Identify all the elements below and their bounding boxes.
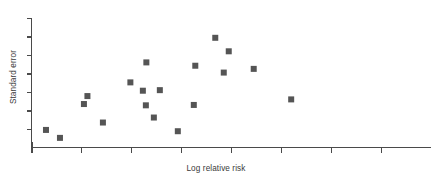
data-point <box>288 96 294 102</box>
data-point <box>84 93 90 99</box>
x-axis-label: Log relative risk <box>186 164 246 173</box>
y-axis-label: Standard error <box>9 50 18 104</box>
scatter-plot-canvas: Log relative risk Standard error <box>0 0 432 178</box>
funnel-plot-figure: Log relative risk Standard error <box>0 0 432 178</box>
data-point <box>251 66 257 72</box>
data-point <box>226 48 232 54</box>
data-point <box>221 70 227 76</box>
data-point-group <box>43 35 294 141</box>
data-point <box>175 128 181 134</box>
data-point <box>43 127 49 133</box>
data-point <box>192 63 198 69</box>
data-point <box>191 102 197 108</box>
data-point <box>127 79 133 85</box>
data-point <box>100 120 106 126</box>
data-point <box>140 88 146 94</box>
data-point <box>143 59 149 65</box>
data-point <box>151 115 157 121</box>
data-point <box>81 101 87 107</box>
data-point <box>157 87 163 93</box>
data-point <box>212 35 218 41</box>
data-point <box>143 102 149 108</box>
data-point <box>57 135 63 141</box>
y-axis-ticks <box>27 19 32 130</box>
